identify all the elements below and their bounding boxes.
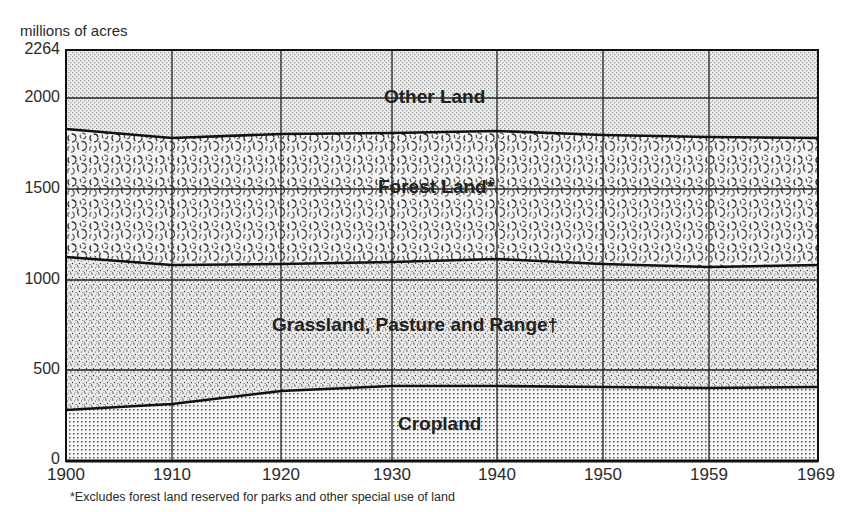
footnote: *Excludes forest land reserved for parks… bbox=[70, 490, 455, 504]
y-tick-1500: 1500 bbox=[10, 179, 60, 197]
x-tick-1969: 1969 bbox=[786, 465, 843, 485]
label-cropland: Cropland bbox=[398, 413, 481, 435]
label-other-land: Other Land bbox=[384, 86, 485, 108]
x-tick-1910: 1910 bbox=[142, 465, 202, 485]
x-tick-1940: 1940 bbox=[467, 465, 527, 485]
x-tick-1959: 1959 bbox=[679, 465, 739, 485]
y-axis-title: millions of acres bbox=[20, 22, 128, 39]
x-tick-1950: 1950 bbox=[573, 465, 633, 485]
label-forest-land: Forest Land* bbox=[378, 176, 494, 198]
x-tick-1930: 1930 bbox=[362, 465, 422, 485]
x-tick-1920: 1920 bbox=[251, 465, 311, 485]
y-tick-2000: 2000 bbox=[10, 88, 60, 106]
x-tick-1900: 1900 bbox=[36, 465, 96, 485]
land-use-chart bbox=[0, 0, 843, 512]
label-grassland: Grassland, Pasture and Range† bbox=[272, 314, 558, 336]
area-forest-land bbox=[66, 129, 818, 267]
y-tick-500: 500 bbox=[10, 360, 60, 378]
y-tick-1000: 1000 bbox=[10, 270, 60, 288]
y-tick-2264: 2264 bbox=[10, 40, 60, 58]
